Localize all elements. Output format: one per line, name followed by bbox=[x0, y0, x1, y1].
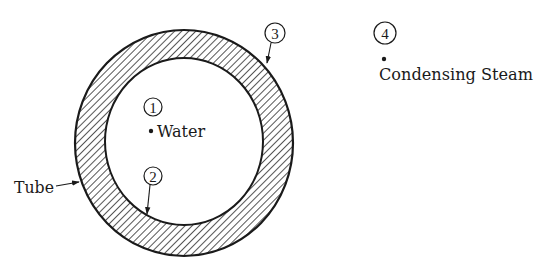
tube-inner-wall bbox=[105, 58, 263, 225]
tube-label: Tube bbox=[14, 178, 54, 197]
point-1-dot bbox=[149, 129, 153, 133]
point-1-number: 1 bbox=[149, 100, 157, 116]
point-1-water: 1 Water bbox=[144, 98, 205, 141]
point-3-arrow bbox=[267, 43, 271, 63]
tube-cross-section-diagram: 1 Water 2 3 4 Condensing Steam Tube bbox=[0, 0, 558, 263]
tube-wall bbox=[75, 30, 293, 256]
point-4-number: 4 bbox=[381, 26, 389, 42]
point-2-number: 2 bbox=[149, 169, 157, 185]
tube-arrow bbox=[56, 182, 79, 186]
point-2-inner-surface: 2 bbox=[144, 167, 162, 214]
point-3-number: 3 bbox=[271, 26, 279, 42]
tube-callout: Tube bbox=[14, 178, 79, 197]
point-3-outer-surface: 3 bbox=[265, 23, 285, 63]
point-2-arrow bbox=[147, 185, 150, 214]
water-label: Water bbox=[157, 122, 205, 141]
point-4-dot bbox=[382, 57, 386, 61]
tube-wall-hatch bbox=[75, 30, 293, 256]
point-4-condensing-steam: 4 Condensing Steam bbox=[374, 22, 533, 84]
condensing-steam-label: Condensing Steam bbox=[379, 65, 533, 84]
